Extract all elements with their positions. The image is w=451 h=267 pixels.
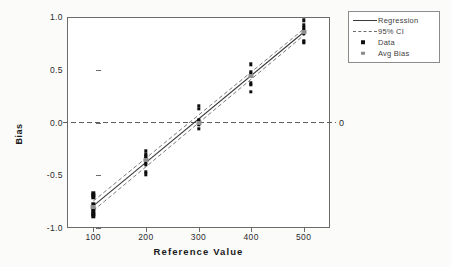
data-point-marker xyxy=(92,196,95,199)
avg-bias-marker xyxy=(143,158,148,162)
legend-label-ci: 95% CI xyxy=(378,27,404,36)
x-tick-label: 200 xyxy=(138,232,153,242)
x-tick-mark xyxy=(251,228,252,232)
legend-item-regression: Regression xyxy=(352,15,436,25)
x-tick-mark xyxy=(146,228,147,232)
avg-bias-marker xyxy=(196,121,201,125)
chart-figure: -1.0-0.50.00.51.0 100200300400500 Bias R… xyxy=(0,0,451,267)
legend-label-data: Data xyxy=(378,38,395,47)
data-point-marker xyxy=(302,41,305,44)
x-tick-label: 500 xyxy=(296,232,311,242)
x-tick-label: 100 xyxy=(86,232,101,242)
x-tick-mark xyxy=(304,228,305,232)
legend-line-icon xyxy=(352,15,378,25)
x-tick-mark xyxy=(199,228,200,232)
zero-reference-label: 0 xyxy=(339,118,344,128)
data-point-marker xyxy=(197,107,200,110)
data-point-marker xyxy=(197,127,200,130)
legend-item-ci: 95% CI xyxy=(352,26,436,36)
legend-avg-marker-icon xyxy=(352,48,378,58)
data-point-marker xyxy=(302,18,305,21)
avg-bias-marker xyxy=(301,30,306,34)
chart-legend: Regression 95% CI Data Avg Bias xyxy=(348,11,440,63)
data-point-marker xyxy=(249,90,252,93)
legend-item-avg-bias: Avg Bias xyxy=(352,48,436,58)
x-tick-label: 400 xyxy=(243,232,258,242)
legend-label-regression: Regression xyxy=(378,16,418,25)
avg-bias-marker xyxy=(91,205,96,209)
legend-square-marker-icon xyxy=(352,37,378,47)
data-point-marker xyxy=(249,83,252,86)
legend-label-avg-bias: Avg Bias xyxy=(378,49,409,58)
legend-dashed-line-icon xyxy=(352,26,378,36)
data-point-marker xyxy=(249,63,252,66)
x-tick-mark xyxy=(93,228,94,232)
x-tick-label: 300 xyxy=(191,232,206,242)
data-point-marker xyxy=(144,172,147,175)
legend-item-data: Data xyxy=(352,37,436,47)
avg-bias-marker xyxy=(249,74,254,78)
data-point-marker xyxy=(144,163,147,166)
data-point-marker xyxy=(92,215,95,218)
y-axis-label: Bias xyxy=(14,123,24,144)
x-axis-label: Reference Value xyxy=(67,246,330,257)
